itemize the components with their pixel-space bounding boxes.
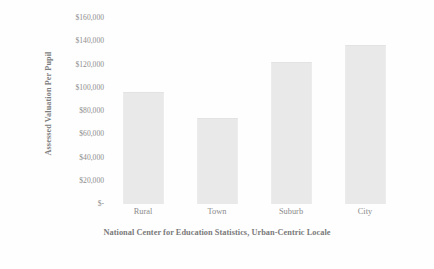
x-axis-tick-label: Town: [180, 207, 254, 216]
x-axis-tick-label: City: [328, 207, 402, 216]
y-axis-tick-label: $20,000: [44, 177, 104, 185]
bar-rural[interactable]: [123, 92, 164, 204]
x-axis-tick-label: Suburb: [254, 207, 328, 216]
bar-suburb[interactable]: [271, 62, 312, 204]
y-axis-tick-label: $80,000: [44, 107, 104, 115]
y-axis-tick-label: $40,000: [44, 154, 104, 162]
bar-slot: [271, 18, 312, 204]
bar-city[interactable]: [345, 45, 386, 204]
plot-area: [106, 18, 402, 204]
y-axis-tick-label: $160,000: [44, 14, 104, 22]
x-axis-tick-labels: RuralTownSuburbCity: [106, 207, 402, 223]
bar-slot: [197, 18, 238, 204]
y-axis-tick-label: $140,000: [44, 37, 104, 45]
y-axis-tick-label: $-: [44, 200, 104, 208]
x-axis-title: National Center for Education Statistics…: [0, 228, 434, 237]
bar-slot: [345, 18, 386, 204]
x-axis-tick-label: Rural: [106, 207, 180, 216]
y-axis-tick-label: $60,000: [44, 130, 104, 138]
bar-town[interactable]: [197, 118, 238, 204]
bar-chart: Assessed Valuation Per Pupil $-$20,000$4…: [0, 0, 434, 269]
bar-slot: [123, 18, 164, 204]
y-axis-tick-label: $100,000: [44, 84, 104, 92]
y-axis-tick-label: $120,000: [44, 61, 104, 69]
